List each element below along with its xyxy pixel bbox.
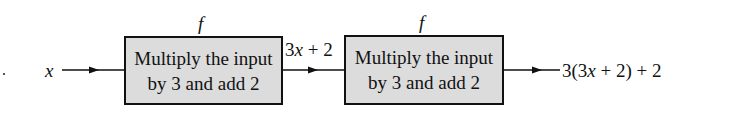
block-2-line-1: Multiply the input bbox=[355, 45, 493, 70]
input-label: x bbox=[45, 61, 53, 80]
function-label-1: f bbox=[198, 14, 203, 33]
intermediate-label: 3x + 2 bbox=[285, 40, 333, 59]
intermediate-rest: + 2 bbox=[303, 39, 333, 60]
output-post: + 2) + 2 bbox=[596, 60, 662, 81]
function-block-1: Multiply the input by 3 and add 2 bbox=[124, 36, 283, 105]
output-label: 3(3x + 2) + 2 bbox=[562, 61, 662, 80]
intermediate-coef: 3 bbox=[285, 39, 295, 60]
output-var: x bbox=[587, 60, 595, 81]
function-block-2: Multiply the input by 3 and add 2 bbox=[344, 35, 504, 105]
intermediate-var: x bbox=[295, 39, 303, 60]
block-2-line-2: by 3 and add 2 bbox=[368, 70, 480, 95]
function-label-2: f bbox=[419, 13, 424, 32]
output-pre: 3(3 bbox=[562, 60, 587, 81]
block-1-line-2: by 3 and add 2 bbox=[148, 71, 260, 96]
block-1-line-1: Multiply the input bbox=[134, 46, 272, 71]
